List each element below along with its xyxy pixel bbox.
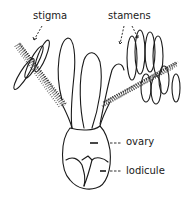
stigma-label: stigma	[33, 11, 67, 21]
stamen-pointer-1	[120, 26, 124, 44]
floret-illustration	[0, 0, 185, 213]
floret-diagram: stigma stamens ovary lodicule	[0, 0, 185, 213]
ovary-label: ovary	[126, 137, 154, 147]
lodicule-outline	[66, 158, 85, 186]
stigma-pointer	[34, 26, 42, 40]
lodicule-label: lodicule	[126, 166, 165, 176]
stamen-filament-center	[80, 53, 101, 128]
anther-right-8	[172, 74, 180, 102]
stamens-label: stamens	[108, 11, 151, 21]
